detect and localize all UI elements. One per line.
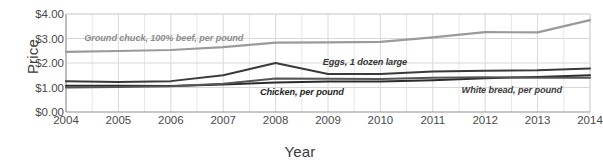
series-label-4: White bread, per pound — [462, 85, 562, 95]
series-label-1: Ground chuck, 100% beef, per pound — [84, 33, 243, 43]
series-label-3: Chicken, per pound — [260, 87, 344, 97]
series-label-2: Eggs, 1 dozen large — [323, 57, 407, 67]
